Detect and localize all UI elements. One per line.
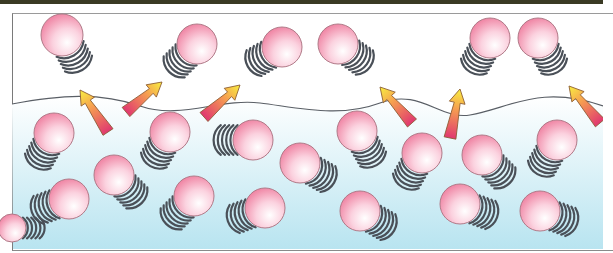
vapor-molecule: [41, 14, 92, 73]
vapor-molecule: [164, 24, 217, 77]
vapor-molecule: [518, 18, 567, 75]
vapor-molecule: [461, 18, 510, 75]
liquid-molecule: [214, 120, 273, 160]
vapor-molecule: [318, 24, 374, 75]
vapor-molecule: [245, 27, 302, 76]
